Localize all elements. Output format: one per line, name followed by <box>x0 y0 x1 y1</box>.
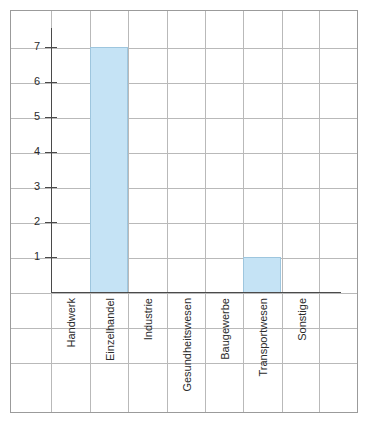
gridline-vertical <box>167 11 168 412</box>
gridline-horizontal <box>11 258 357 259</box>
y-tick-mark <box>45 82 57 83</box>
category-label-industrie: Industrie <box>142 298 154 340</box>
y-tick-mark <box>45 152 57 153</box>
x-axis-line <box>51 292 341 293</box>
gridline-horizontal <box>11 188 357 189</box>
gridline-vertical <box>319 11 320 412</box>
gridline-horizontal <box>11 293 357 294</box>
y-tick-label-4: 4 <box>20 146 40 157</box>
category-label-sonstige: Sonstige <box>296 298 308 341</box>
y-tick-mark <box>45 187 57 188</box>
category-label-transportwesen: Transportwesen <box>257 298 269 376</box>
gridline-vertical <box>282 11 283 412</box>
y-tick-label-6: 6 <box>20 76 40 87</box>
y-tick-label-3: 3 <box>20 181 40 192</box>
gridline-vertical <box>243 11 244 412</box>
gridline-horizontal <box>11 83 357 84</box>
y-tick-label-7: 7 <box>20 41 40 52</box>
y-tick-label-1: 1 <box>20 251 40 262</box>
category-label-handwerk: Handwerk <box>65 298 77 348</box>
y-tick-label-2: 2 <box>20 216 40 227</box>
y-tick-mark <box>45 222 57 223</box>
gridline-horizontal <box>11 153 357 154</box>
y-tick-mark <box>45 117 57 118</box>
y-tick-mark <box>45 257 57 258</box>
y-tick-mark <box>45 47 57 48</box>
bar-transportwesen[interactable] <box>243 257 281 293</box>
y-axis-line <box>51 28 52 293</box>
gridline-horizontal <box>11 223 357 224</box>
category-label-gesundheitswesen: Gesundheitswesen <box>181 298 193 392</box>
gridline-horizontal <box>11 118 357 119</box>
category-label-baugewerbe: Baugewerbe <box>219 298 231 360</box>
gridline-horizontal <box>11 48 357 49</box>
gridline-vertical <box>128 11 129 412</box>
y-tick-label-5: 5 <box>20 111 40 122</box>
gridline-vertical <box>205 11 206 412</box>
bar-einzelhandel[interactable] <box>90 47 128 293</box>
bar-chart: 7 6 5 4 3 2 1 Handwerk Einzelhandel Indu… <box>0 0 368 430</box>
category-label-einzelhandel: Einzelhandel <box>104 298 116 361</box>
